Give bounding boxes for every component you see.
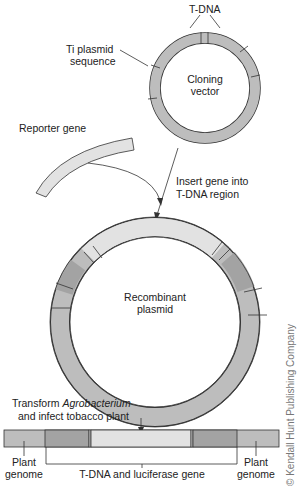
insert-label-1: Insert gene into <box>176 175 248 187</box>
transform-label-2: and infect tobacco plant <box>18 410 129 422</box>
insert-arrow-straight <box>157 148 178 215</box>
ti-plasmid-label-1: Ti plasmid <box>66 43 113 55</box>
agrobacterium-text: Agrobacterium <box>62 397 130 409</box>
insert-label-2: T-DNA region <box>176 188 239 200</box>
reporter-gene-label: Reporter gene <box>19 122 86 134</box>
ti-plasmid-label-2: sequence <box>70 55 116 67</box>
plant-genome-right-2: genome <box>236 468 276 480</box>
plant-genome-bar <box>4 430 279 447</box>
plant-genome-left-2: genome <box>4 468 44 480</box>
plant-genome-right-1: Plant <box>236 456 276 468</box>
recombinant-plasmid <box>50 217 267 427</box>
reporter-gene-fragment <box>36 138 134 197</box>
tdna-pointer <box>210 15 220 28</box>
transform-label-1: Transform Agrobacterium <box>12 397 131 409</box>
tdna-luciferase-label: T-DNA and luciferase gene <box>72 468 212 480</box>
recombinant-label-2: plasmid <box>110 303 200 315</box>
transform-text: Transform <box>12 397 62 409</box>
ti-plasmid-pointer <box>120 50 148 66</box>
copyright-notice: © Kendall Hunt Publishing Company <box>285 324 296 486</box>
tdna-bracket <box>46 447 237 464</box>
plant-genome-left-1: Plant <box>4 456 44 468</box>
cloning-vector-label-1: Cloning <box>172 73 238 85</box>
insert-arrow-curve <box>88 163 160 200</box>
tdna-pointer <box>190 15 200 28</box>
recombinant-label-1: Recombinant <box>110 291 200 303</box>
cloning-vector-label-2: vector <box>172 85 238 97</box>
tdna-label: T-DNA <box>189 3 221 15</box>
